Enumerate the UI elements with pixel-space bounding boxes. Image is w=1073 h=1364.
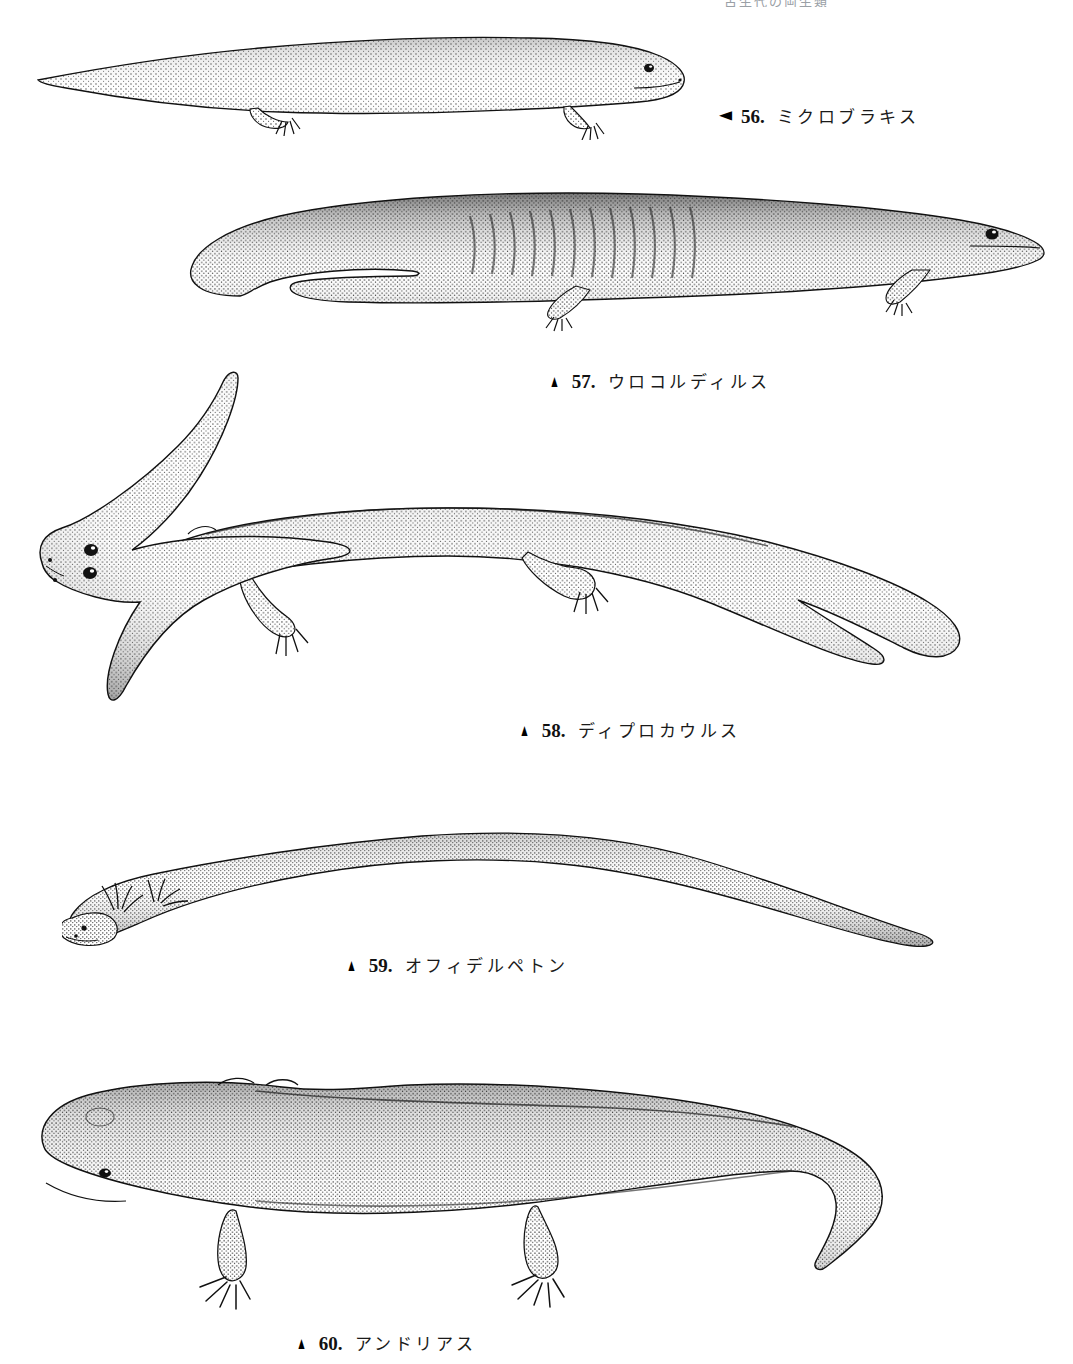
up-triangle-marker-icon: ▲: [519, 722, 529, 739]
book-plate-page: 古生代の両生類: [0, 0, 1073, 1364]
figure-number-58: 58.: [542, 720, 566, 742]
microbrachis-forelimb: [564, 106, 604, 140]
urocordylus-illustration: [170, 178, 1050, 350]
caption-60: ▲ 60. アンドリアス: [293, 1330, 477, 1355]
figure-name-58: ディプロカウルス: [578, 717, 741, 742]
figure-number-56: 56.: [741, 106, 765, 128]
diplocaulus-illustration: [28, 368, 983, 738]
figure-59-ophiderpeton: [62, 800, 952, 952]
figure-58-diplocaulus: [28, 368, 983, 738]
caption-56: ◀ 56. ミクロブラキス: [719, 103, 919, 128]
left-triangle-marker-icon: ◀: [719, 109, 732, 121]
figure-60-andrias: [30, 1055, 930, 1325]
figure-name-56: ミクロブラキス: [777, 103, 920, 128]
figure-56-microbrachis: [30, 18, 720, 140]
microbrachis-illustration: [30, 18, 720, 140]
andrias-hindlimb: [512, 1206, 564, 1307]
up-triangle-marker-icon: ▲: [346, 957, 356, 974]
caption-59: ▲ 59. オフィデルペトン: [343, 952, 569, 977]
figure-number-59: 59.: [369, 955, 393, 977]
ophiderpeton-illustration: [62, 800, 952, 952]
figure-number-60: 60.: [319, 1333, 343, 1355]
diplocaulus-forelimb: [240, 572, 308, 656]
caption-58: ▲ 58. ディプロカウルス: [516, 717, 741, 742]
andrias-forelimb: [200, 1210, 250, 1309]
up-triangle-marker-icon: ▲: [296, 1335, 306, 1352]
figure-57-urocordylus: [170, 178, 1050, 350]
running-head: 古生代の両生類: [724, 0, 1064, 7]
figure-name-59: オフィデルペトン: [405, 952, 569, 977]
andrias-illustration: [30, 1055, 930, 1325]
figure-name-60: アンドリアス: [355, 1330, 477, 1355]
